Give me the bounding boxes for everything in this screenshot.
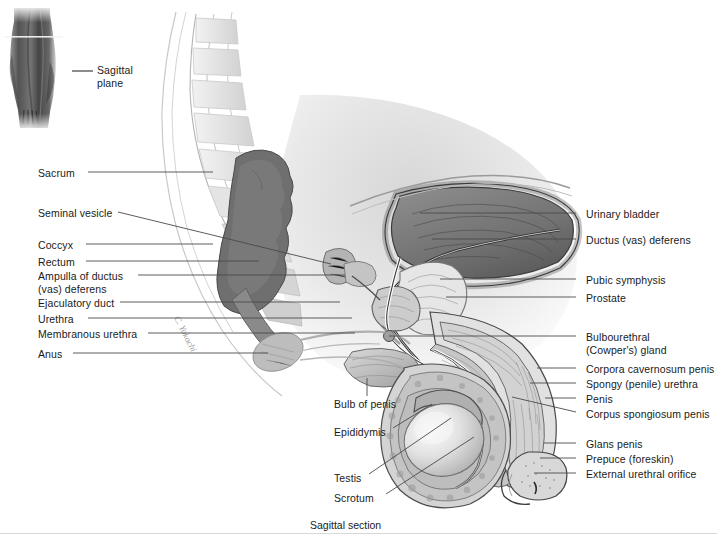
label-external-urethral-orifice: External urethral orifice (586, 468, 696, 481)
label-pubic-symphysis: Pubic symphysis (586, 274, 666, 287)
label-corpora-cavernosum-penis: Corpora cavernosum penis (586, 363, 714, 376)
sagittal-plane-inset (5, 8, 93, 128)
label-membranous-urethra: Membranous urethra (38, 328, 137, 341)
label-rectum: Rectum (38, 256, 75, 269)
label-scrotum: Scrotum (334, 492, 374, 505)
label-penis: Penis (586, 393, 613, 406)
sagittal-plane-label: Sagittal plane (97, 64, 133, 89)
figure-caption: Sagittal section (310, 519, 381, 531)
scrotum-and-testis (381, 364, 511, 508)
label-sacrum: Sacrum (38, 167, 75, 180)
label-ejaculatory-duct: Ejaculatory duct (38, 297, 114, 310)
label-prostate: Prostate (586, 292, 626, 305)
label-bulb-of-penis: Bulb of penis (334, 398, 396, 411)
label-urinary-bladder: Urinary bladder (586, 208, 659, 221)
label-corpus-spongiosum-penis: Corpus spongiosum penis (586, 408, 710, 421)
label-seminal-vesicle: Seminal vesicle (38, 207, 112, 220)
glans-shape (508, 452, 567, 500)
label-glans-penis: Glans penis (586, 438, 643, 451)
label-prepuce-foreskin: Prepuce (foreskin) (586, 453, 674, 466)
label-anus: Anus (38, 348, 62, 361)
footer-divider (0, 533, 717, 534)
label-urethra: Urethra (38, 313, 74, 326)
label-epididymis: Epididymis (334, 426, 386, 439)
prostate-gland (372, 286, 420, 330)
label-coccyx: Coccyx (38, 239, 73, 252)
label-spongy-penile-urethra: Spongy (penile) urethra (586, 378, 698, 391)
label-bulbourethral-cowpers-gland: Bulbourethral (Cowper's) gland (586, 331, 667, 356)
label-testis: Testis (334, 472, 361, 485)
label-ampulla-of-ductus-deferens: Ampulla of ductus (vas) deferens (38, 270, 123, 295)
artist-signature: C. Yokochi (172, 314, 199, 353)
label-ductus-vas-deferens: Ductus (vas) deferens (586, 234, 691, 247)
